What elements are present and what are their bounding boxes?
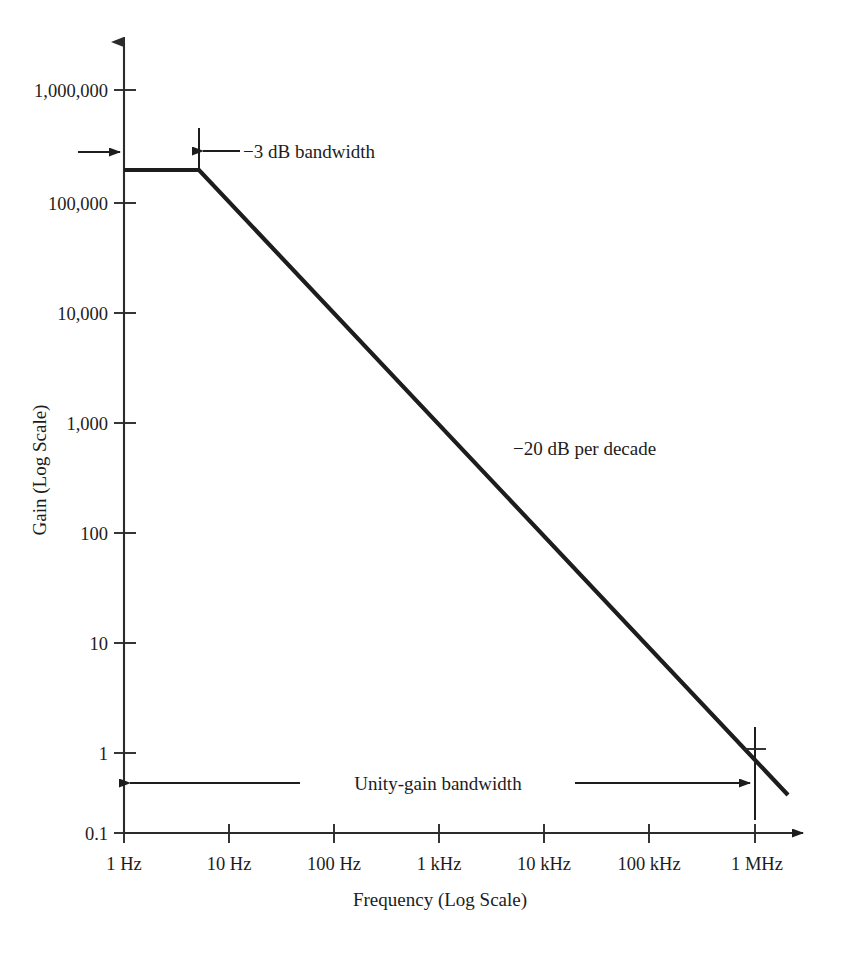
- x-tick-label-10hz: 10 Hz: [207, 854, 252, 874]
- axes-group: [124, 42, 803, 833]
- x-tick-label-1mhz: 1 MHz: [731, 854, 783, 874]
- unity-gain-label: Unity-gain bandwidth: [354, 773, 522, 794]
- y-tick-label-10: 10: [90, 634, 109, 654]
- y-tick-label-10000: 10,000: [57, 304, 108, 324]
- x-tick-label-1khz: 1 kHz: [417, 854, 462, 874]
- chart-svg: 1,000,000 100,000 10,000 1,000 100 10 1 …: [0, 0, 846, 965]
- x-tick-labels-group: 1 Hz 10 Hz 100 Hz 1 kHz 10 kHz 100 kHz 1…: [106, 854, 783, 874]
- y-tick-label-0.1: 0.1: [85, 824, 108, 844]
- x-tick-label-10khz: 10 kHz: [517, 854, 571, 874]
- minus-3db-label: −3 dB bandwidth: [243, 141, 376, 162]
- y-tick-label-100: 100: [80, 524, 108, 544]
- x-tick-label-100hz: 100 Hz: [307, 854, 361, 874]
- y-tick-label-100000: 100,000: [48, 194, 108, 214]
- gain-curve-group: [124, 170, 788, 795]
- bode-plot-figure: 1,000,000 100,000 10,000 1,000 100 10 1 …: [0, 0, 846, 965]
- y-tick-label-1000: 1,000: [66, 414, 108, 434]
- y-axis-title: Gain (Log Scale): [29, 405, 51, 536]
- x-tick-label-100khz: 100 kHz: [617, 854, 680, 874]
- x-axis-title: Frequency (Log Scale): [353, 889, 527, 911]
- unity-gain-annotation-group: Unity-gain bandwidth: [130, 727, 766, 820]
- y-tick-label-1000000: 1,000,000: [34, 81, 108, 101]
- open-loop-gain-curve: [124, 170, 788, 795]
- minus-3db-annotation-group: −3 dB bandwidth: [199, 128, 376, 172]
- x-tick-label-1hz: 1 Hz: [106, 854, 141, 874]
- y-tick-label-1: 1: [99, 744, 108, 764]
- rolloff-slope-label: −20 dB per decade: [513, 438, 656, 459]
